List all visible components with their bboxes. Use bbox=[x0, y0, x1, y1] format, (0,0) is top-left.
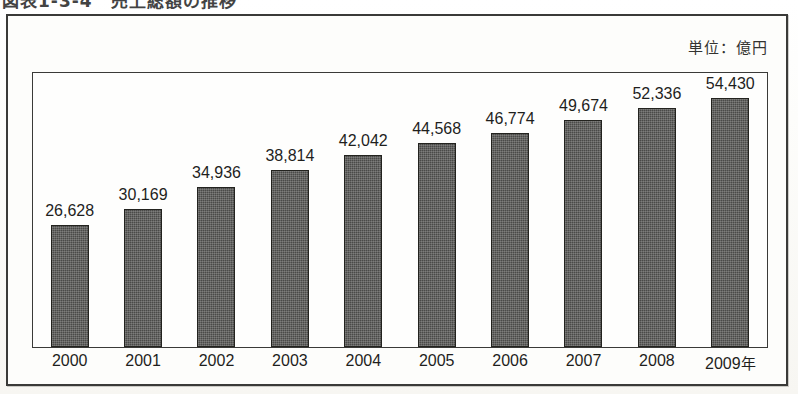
bar-2008[interactable] bbox=[638, 108, 676, 347]
x-tick-year-suffix: 年 bbox=[741, 355, 756, 373]
bar-2000[interactable] bbox=[51, 225, 89, 347]
bar-2003[interactable] bbox=[271, 170, 309, 347]
bar-2002[interactable] bbox=[197, 187, 235, 347]
x-tick-2004: 2004 bbox=[346, 352, 382, 370]
bar-value-label: 52,336 bbox=[632, 85, 681, 103]
bar-value-label: 49,674 bbox=[559, 97, 608, 115]
bar-value-label: 38,814 bbox=[265, 147, 314, 165]
bar-value-label: 30,169 bbox=[119, 186, 168, 204]
page-title: 図表1-3-4 売上総額の推移 bbox=[0, 0, 798, 11]
plot-area: 26,62830,16934,93638,81442,04244,56846,7… bbox=[33, 73, 767, 347]
x-tick-2009: 2009年 bbox=[705, 352, 756, 373]
bar-slot: 26,628 bbox=[33, 73, 106, 347]
bar-2009[interactable] bbox=[711, 98, 749, 347]
bar-slot: 30,169 bbox=[106, 73, 179, 347]
bar-slot: 38,814 bbox=[253, 73, 326, 347]
figure-title-strip: 図表1-3-4 売上総額の推移 bbox=[0, 0, 798, 13]
bar-2005[interactable] bbox=[418, 143, 456, 347]
x-axis: 2000200120022003200420052006200720082009… bbox=[32, 352, 768, 382]
bar-slot: 34,936 bbox=[180, 73, 253, 347]
x-tick-2000: 2000 bbox=[52, 352, 88, 370]
x-tick-2003: 2003 bbox=[272, 352, 308, 370]
bar-slot: 49,674 bbox=[547, 73, 620, 347]
x-tick-2001: 2001 bbox=[125, 352, 161, 370]
bar-slot: 54,430 bbox=[694, 73, 767, 347]
bar-slot: 44,568 bbox=[400, 73, 473, 347]
unit-label: 単位：億円 bbox=[688, 36, 768, 57]
figure-outer-frame: 単位：億円 26,62830,16934,93638,81442,04244,5… bbox=[6, 14, 788, 386]
plot-frame: 26,62830,16934,93638,81442,04244,56846,7… bbox=[32, 72, 768, 348]
bar-2007[interactable] bbox=[564, 120, 602, 347]
bar-value-label: 46,774 bbox=[486, 110, 535, 128]
figure-page: 図表1-3-4 売上総額の推移 単位：億円 26,62830,16934,936… bbox=[0, 0, 798, 394]
bar-value-label: 44,568 bbox=[412, 120, 461, 138]
bar-2001[interactable] bbox=[124, 209, 162, 347]
bar-slot: 42,042 bbox=[327, 73, 400, 347]
bar-2006[interactable] bbox=[491, 133, 529, 347]
bar-value-label: 54,430 bbox=[706, 75, 755, 93]
x-tick-2005: 2005 bbox=[419, 352, 455, 370]
bar-value-label: 26,628 bbox=[45, 202, 94, 220]
x-tick-2008: 2008 bbox=[639, 352, 675, 370]
x-tick-2002: 2002 bbox=[199, 352, 235, 370]
bar-value-label: 42,042 bbox=[339, 132, 388, 150]
x-tick-2006: 2006 bbox=[492, 352, 528, 370]
bar-slot: 46,774 bbox=[473, 73, 546, 347]
bar-value-label: 34,936 bbox=[192, 164, 241, 182]
bar-2004[interactable] bbox=[344, 155, 382, 347]
x-tick-2007: 2007 bbox=[566, 352, 602, 370]
bar-slot: 52,336 bbox=[620, 73, 693, 347]
